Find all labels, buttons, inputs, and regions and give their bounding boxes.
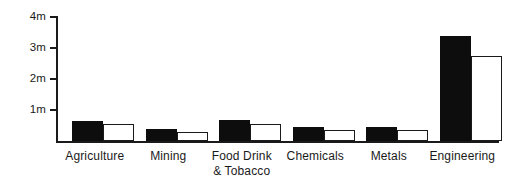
bar-hollow — [177, 132, 208, 141]
bar-solid — [293, 127, 324, 141]
bar-hollow — [324, 130, 355, 141]
bar-solid — [146, 129, 177, 141]
y-axis-label-3m: 3m — [12, 42, 46, 53]
bar-solid — [366, 127, 397, 141]
y-axis-tick-group-3m: 3m — [10, 42, 46, 54]
bar-solid — [72, 121, 103, 141]
bar-solid — [219, 120, 250, 141]
y-axis-tick-group-4m: 4m — [10, 11, 46, 23]
y-axis-label-1m: 1m — [12, 104, 46, 115]
y-axis-label-2m: 2m — [12, 73, 46, 84]
y-axis-tick-group-1m: 1m — [10, 104, 46, 116]
bar-group — [352, 17, 426, 141]
bar-group — [279, 17, 353, 141]
y-axis-tick-group-2m: 2m — [10, 73, 46, 85]
bar-hollow — [103, 124, 134, 141]
x-axis-baseline — [56, 141, 499, 143]
plot-area — [58, 17, 499, 141]
bar-hollow — [250, 124, 281, 141]
bar-group — [426, 17, 500, 141]
bar-group — [132, 17, 206, 141]
bar-chart: 4m 3m 2m 1m AgricultureMiningFood Drink … — [0, 0, 531, 186]
bar-group — [205, 17, 279, 141]
x-axis-category-label: Engineering — [414, 149, 512, 164]
bar-hollow — [471, 56, 502, 141]
bar-hollow — [397, 130, 428, 141]
bar-group — [58, 17, 132, 141]
bar-solid — [440, 36, 471, 141]
y-axis-label-4m: 4m — [12, 11, 46, 22]
